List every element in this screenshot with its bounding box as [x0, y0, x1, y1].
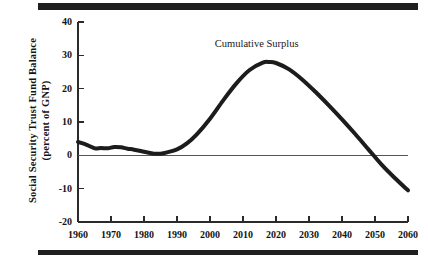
y-tick-label: 30 — [38, 49, 72, 60]
y-tick-label: 40 — [38, 16, 72, 27]
axis-lines — [78, 22, 408, 222]
y-tick-label: -20 — [38, 216, 72, 227]
y-tick-label: 10 — [38, 116, 72, 127]
y-tick-label: 20 — [38, 83, 72, 94]
data-series-group — [78, 62, 408, 191]
series-line-0 — [78, 62, 408, 191]
y-tick-label: 0 — [38, 149, 72, 160]
series-annotation-cumulative-surplus: Cumulative Surplus — [215, 38, 299, 49]
chart-figure: Social Security Trust Fund Balance (perc… — [0, 0, 428, 266]
y-tick-label: -10 — [38, 183, 72, 194]
x-tick-label: 2060 — [388, 229, 428, 240]
